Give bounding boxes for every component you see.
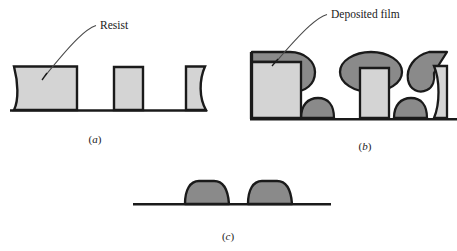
panel-c-caption-close: ) — [230, 230, 234, 243]
panel-a-caption: (a) — [89, 133, 102, 146]
panel-a-caption-close: ) — [98, 133, 102, 146]
panel-b-film-floor-1 — [301, 98, 334, 118]
panel-c-film-feature-2 — [248, 181, 292, 204]
panel-c-film-feature-1 — [185, 181, 229, 204]
panel-c-caption: (c) — [222, 230, 235, 243]
panel-a-resist-block-2 — [114, 67, 143, 110]
deposited-film-label: Deposited film — [331, 8, 400, 21]
panel-b-caption: (b) — [359, 140, 372, 153]
panel-b: Deposited film (b) — [250, 8, 457, 153]
panel-a-resist-block-1 — [14, 67, 77, 111]
panel-b-caption-close: ) — [368, 140, 372, 153]
panel-b-resist-block-1 — [252, 62, 301, 118]
panel-c: (c) — [133, 181, 331, 243]
figure-container: Resist (a) — [0, 0, 457, 251]
panel-a-resist-block-3 — [186, 67, 206, 111]
panel-b-resist-block-3 — [434, 66, 447, 118]
resist-label: Resist — [100, 19, 129, 31]
panel-b-resist-block-2 — [360, 68, 389, 118]
panel-a: Resist (a) — [10, 19, 207, 146]
panel-b-film-floor-2 — [394, 98, 427, 118]
lift-off-process-figure: Resist (a) — [0, 0, 457, 251]
